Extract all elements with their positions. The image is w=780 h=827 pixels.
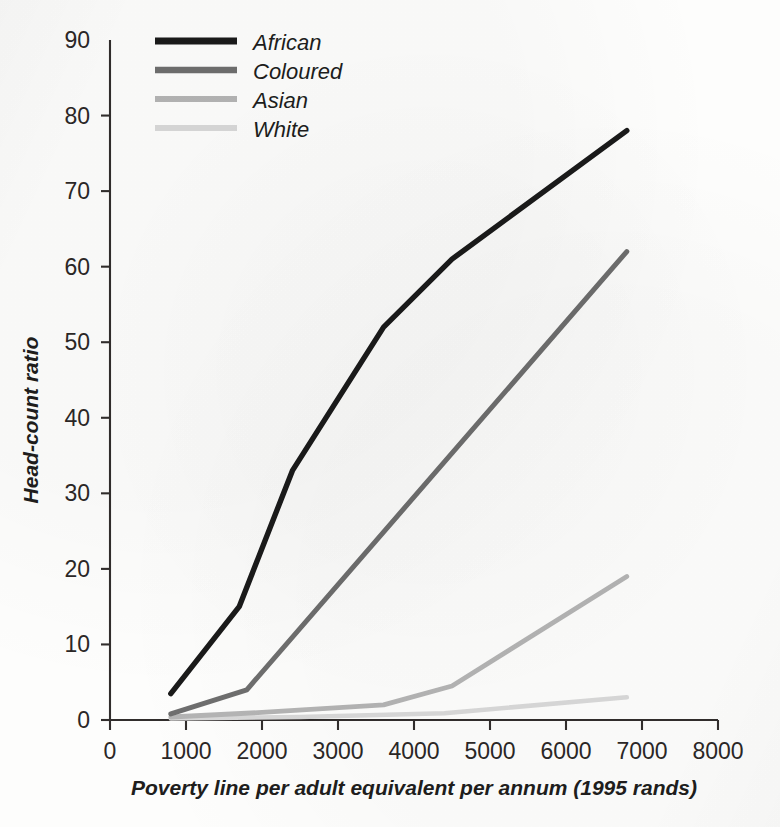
x-tick-label: 0 [104,738,117,764]
x-tick-label: 8000 [692,738,743,764]
y-tick-label: 50 [64,329,90,355]
x-tick-label: 1000 [160,738,211,764]
y-tick-label: 20 [64,556,90,582]
legend-label-white: White [253,117,309,142]
x-tick-label: 7000 [616,738,667,764]
x-tick-label: 3000 [312,738,363,764]
y-tick-label: 10 [64,631,90,657]
legend-label-asian: Asian [251,88,308,113]
y-axis-title: Head-count ratio [19,336,42,503]
y-tick-label: 40 [64,405,90,431]
line-chart-canvas: 0102030405060708090 01000200030004000500… [0,0,780,827]
y-tick-label: 90 [64,27,90,53]
legend-label-african: African [251,30,321,55]
y-tick-label: 60 [64,254,90,280]
x-tick-label: 6000 [540,738,591,764]
y-tick-label: 70 [64,178,90,204]
x-tick-label: 2000 [236,738,287,764]
x-axis-title: Poverty line per adult equivalent per an… [131,776,697,799]
y-tick-label: 30 [64,480,90,506]
x-tick-label: 5000 [464,738,515,764]
y-tick-label: 80 [64,103,90,129]
y-tick-label: 0 [77,707,90,733]
chart-figure: 0102030405060708090 01000200030004000500… [0,0,780,827]
x-tick-label: 4000 [388,738,439,764]
legend-label-coloured: Coloured [253,59,343,84]
